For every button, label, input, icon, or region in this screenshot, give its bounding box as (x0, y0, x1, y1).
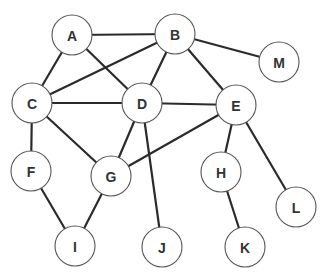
node-label: K (240, 240, 250, 256)
node-label: E (231, 98, 240, 114)
node-l: L (276, 187, 316, 227)
node-k: K (225, 227, 265, 267)
node-label: L (292, 200, 301, 216)
node-h: H (201, 152, 241, 192)
graph-svg: ABMCDEFGHLIJK (0, 0, 322, 279)
node-m: M (259, 42, 299, 82)
edge-d-j (142, 103, 162, 247)
node-f: F (11, 151, 51, 191)
node-e: E (216, 85, 256, 125)
node-d: D (122, 83, 162, 123)
edges-layer (31, 34, 296, 247)
node-a: A (52, 15, 92, 55)
node-b: B (155, 14, 195, 54)
node-c: C (12, 83, 52, 123)
node-label: G (106, 169, 117, 185)
node-j: J (142, 227, 182, 267)
node-label: A (67, 28, 77, 44)
node-label: B (170, 27, 180, 43)
node-i: I (55, 226, 95, 266)
node-label: I (73, 239, 77, 255)
node-label: H (216, 165, 226, 181)
node-label: J (158, 240, 166, 256)
node-label: D (137, 96, 147, 112)
node-label: M (273, 55, 285, 71)
graph-diagram: ABMCDEFGHLIJK (0, 0, 322, 279)
node-label: C (27, 96, 37, 112)
node-g: G (91, 156, 131, 196)
nodes-layer: ABMCDEFGHLIJK (11, 14, 316, 267)
node-label: F (27, 164, 36, 180)
